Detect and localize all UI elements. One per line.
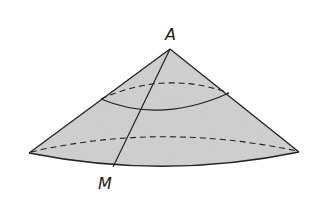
cone-surface-texture [29, 49, 299, 166]
point-m-label: M [98, 176, 112, 192]
cone-diagram [0, 0, 318, 219]
apex-label: A [165, 27, 176, 43]
